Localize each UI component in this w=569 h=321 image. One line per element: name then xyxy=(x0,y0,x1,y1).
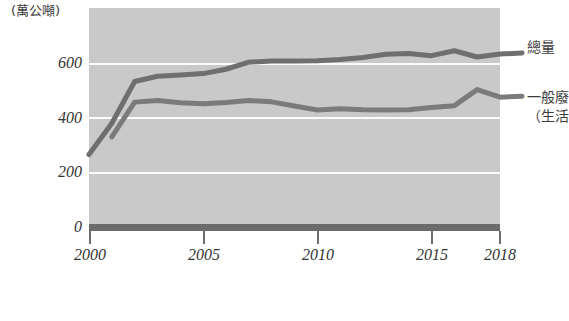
y-tick-label-600: 600 xyxy=(8,55,82,71)
y-axis: 600 400 200 0 xyxy=(0,0,82,321)
series-label-msw-line1: 一般廢 xyxy=(527,89,569,105)
series-label-msw: 一般廢 （生活 xyxy=(527,88,569,126)
x-axis-baseline xyxy=(89,224,500,231)
gridline-400 xyxy=(89,117,500,119)
x-tick-label-2000: 2000 xyxy=(74,246,106,264)
x-tick-label-2010: 2010 xyxy=(302,246,334,264)
x-tick-mark-2018 xyxy=(499,231,501,244)
x-tick-label-2018: 2018 xyxy=(484,246,516,264)
x-tick-mark-2015 xyxy=(431,231,433,244)
x-tick-mark-2010 xyxy=(317,231,319,244)
y-tick-label-400: 400 xyxy=(8,110,82,126)
x-tick-label-2005: 2005 xyxy=(188,246,220,264)
gridline-200 xyxy=(89,172,500,174)
series-label-msw-line2: （生活 xyxy=(527,107,569,126)
gridline-600 xyxy=(89,63,500,65)
x-tick-mark-2000 xyxy=(89,231,91,244)
y-tick-label-200: 200 xyxy=(8,164,82,180)
plot-area xyxy=(89,8,500,226)
series-label-total: 總量 xyxy=(527,38,555,57)
x-tick-mark-2005 xyxy=(203,231,205,244)
y-tick-label-0: 0 xyxy=(8,219,82,235)
x-tick-label-2015: 2015 xyxy=(416,246,448,264)
